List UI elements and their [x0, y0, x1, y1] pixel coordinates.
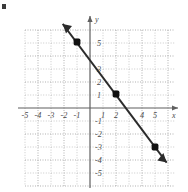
- data-point--1-5: [74, 39, 81, 46]
- x-axis: [18, 105, 178, 110]
- y-tick-label--4: -4: [95, 156, 102, 165]
- data-point-5--3: [152, 144, 159, 151]
- x-tick-label--3: -3: [48, 111, 55, 120]
- x-tick-label--4: -4: [35, 111, 42, 120]
- x-tick-label--5: -5: [22, 111, 29, 120]
- y-axis-label: y: [94, 15, 99, 24]
- x-tick-labels: -5 -4 -3 -2 -1 1 2 4 5: [22, 111, 157, 120]
- coordinate-plane-svg: -5 -4 -3 -2 -1 1 2 4 5 5 3 2 1 -1 -2 -3 …: [0, 0, 188, 192]
- y-tick-label-5: 5: [97, 39, 101, 48]
- y-axis-arrowhead: [87, 16, 92, 22]
- x-tick-label-2: 2: [114, 111, 118, 120]
- x-tick-label-5: 5: [153, 111, 157, 120]
- graph-figure: -5 -4 -3 -2 -1 1 2 4 5 5 3 2 1 -1 -2 -3 …: [0, 0, 188, 192]
- y-tick-label-2: 2: [97, 78, 101, 87]
- corner-artifact-mark: [2, 4, 6, 9]
- data-point-2-1: [113, 91, 120, 98]
- x-tick-label--2: -2: [61, 111, 68, 120]
- x-tick-label--1: -1: [74, 111, 81, 120]
- y-tick-label--2: -2: [95, 130, 102, 139]
- plotted-line-arrowhead-lower-right: [157, 153, 166, 163]
- y-tick-label--3: -3: [95, 143, 102, 152]
- y-tick-label-1: 1: [97, 91, 101, 100]
- y-axis: [87, 16, 92, 188]
- x-axis-arrowhead: [172, 105, 178, 110]
- x-tick-label-4: 4: [140, 111, 144, 120]
- x-axis-label: x: [171, 111, 176, 120]
- y-tick-label--5: -5: [95, 169, 102, 178]
- y-tick-label--1: -1: [95, 117, 102, 126]
- plotted-line-arrowhead-upper-left: [63, 24, 72, 34]
